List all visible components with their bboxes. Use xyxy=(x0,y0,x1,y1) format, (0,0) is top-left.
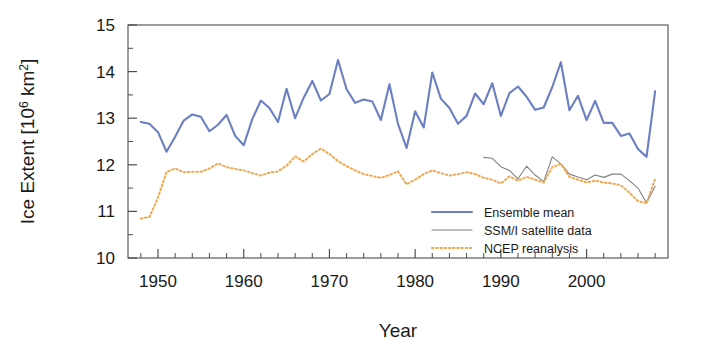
ice-extent-chart-figure: 101112131415195019601970198019902000Year… xyxy=(0,0,707,351)
series-line-1 xyxy=(484,157,655,203)
legend-label-1: SSM/I satellite data xyxy=(484,224,592,238)
y-tick-label: 11 xyxy=(97,202,115,221)
y-tick-label: 13 xyxy=(96,109,115,128)
x-axis-label: Year xyxy=(379,320,418,341)
y-tick-label: 14 xyxy=(96,63,115,82)
x-tick-label: 1970 xyxy=(311,272,349,291)
y-axis-label-text: Ice Extent [106 km2] xyxy=(17,59,38,224)
x-tick-label: 1980 xyxy=(396,272,434,291)
legend-label-0: Ensemble mean xyxy=(484,206,574,220)
chart-canvas: 101112131415195019601970198019902000Year… xyxy=(0,0,707,351)
series-line-2 xyxy=(141,148,655,218)
y-tick-label: 12 xyxy=(96,156,115,175)
x-tick-label: 1990 xyxy=(482,272,520,291)
x-tick-label: 1960 xyxy=(225,272,263,291)
series-line-0 xyxy=(141,60,655,157)
y-tick-label: 15 xyxy=(96,16,115,35)
y-axis-label: Ice Extent [106 km2] xyxy=(17,59,38,224)
legend-label-2: NCEP reanalysis xyxy=(484,242,578,256)
y-tick-label: 10 xyxy=(96,249,115,268)
x-tick-label: 2000 xyxy=(568,272,606,291)
x-tick-label: 1950 xyxy=(139,272,177,291)
